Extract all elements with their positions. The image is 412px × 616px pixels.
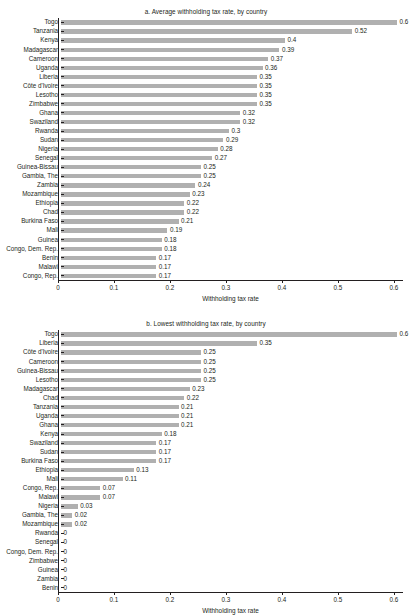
bar-row: Zambia0.24 xyxy=(0,181,412,190)
y-axis-tick xyxy=(61,452,64,453)
y-axis-tick xyxy=(61,203,64,204)
bar xyxy=(61,111,240,115)
bar xyxy=(61,48,279,52)
bar-row: Swaziland0.17 xyxy=(0,439,412,448)
bar xyxy=(61,129,229,133)
bar-row: Sudan0.17 xyxy=(0,448,412,457)
category-label: Rwanda xyxy=(0,530,61,536)
y-axis-tick xyxy=(61,434,64,435)
bar-value-label: 0.18 xyxy=(162,237,177,243)
bar xyxy=(61,192,190,196)
bar-row: Congo, Dem. Rep.0 xyxy=(0,547,412,556)
y-axis-tick xyxy=(61,379,64,380)
bar-row: Côte d'Ivoire0.35 xyxy=(0,81,412,90)
category-label: Zimbabwe xyxy=(0,101,61,107)
bar-zone: 0.25 xyxy=(61,357,412,366)
bar-zone: 0.17 xyxy=(61,262,412,271)
bar-zone: 0.36 xyxy=(61,63,412,72)
bar xyxy=(61,138,223,142)
y-axis-tick xyxy=(61,415,64,416)
x-axis-ticklabel: 0.6 xyxy=(390,595,399,604)
panel-b-plot: Togo0.6Liberia0.35Côte d'Ivoire0.25Camer… xyxy=(0,330,412,616)
bar-zone: 0 xyxy=(61,583,412,592)
bar-value-label: 0.35 xyxy=(257,340,272,346)
bar-zone: 0.22 xyxy=(61,199,412,208)
bar-value-label: 0.17 xyxy=(156,458,171,464)
bar-row: Lesotho0.25 xyxy=(0,375,412,384)
bar-row: Rwanda0 xyxy=(0,529,412,538)
bar-value-label: 0.35 xyxy=(257,92,272,98)
bar xyxy=(61,38,285,42)
category-label: Liberia xyxy=(0,340,61,346)
bar-zone: 0.25 xyxy=(61,375,412,384)
category-label: Benin xyxy=(0,585,61,591)
bar-row: Guinea0.18 xyxy=(0,235,412,244)
category-label: Mali xyxy=(0,476,61,482)
bar-zone: 0.24 xyxy=(61,181,412,190)
category-label: Congo, Rep. xyxy=(0,273,61,279)
bar xyxy=(61,405,179,409)
bar-row: Madagascar0.39 xyxy=(0,45,412,54)
category-label: Kenya xyxy=(0,37,61,43)
bar-value-label: 0.32 xyxy=(240,119,255,125)
y-axis-tick xyxy=(61,58,64,59)
bar-zone: 0.23 xyxy=(61,384,412,393)
bar-row: Chad0.22 xyxy=(0,393,412,402)
category-label: Uganda xyxy=(0,65,61,71)
category-label: Nigeria xyxy=(0,503,61,509)
panel-a-bar-rows: Togo0.6Tanzania0.52Kenya0.4Madagascar0.3… xyxy=(0,18,412,280)
panel-b-x-axis-title: Withholding tax rate xyxy=(0,606,412,616)
y-axis-tick xyxy=(61,587,64,588)
bar-zone: 0.07 xyxy=(61,493,412,502)
y-axis-tick xyxy=(61,479,64,480)
bar xyxy=(61,477,123,481)
y-axis-tick xyxy=(61,578,64,579)
category-label: Gambia, The xyxy=(0,173,61,179)
bar-zone: 0.6 xyxy=(61,330,412,339)
bar-zone: 0.28 xyxy=(61,145,412,154)
bar-row: Mozambique0.23 xyxy=(0,190,412,199)
bar-value-label: 0.22 xyxy=(184,209,199,215)
panel-b-lowest-withholding-tax: b. Lowest withholding tax rate, by count… xyxy=(0,318,412,616)
bar-value-label: 0.11 xyxy=(123,476,137,482)
bar xyxy=(61,274,156,278)
bar xyxy=(61,201,184,205)
bar-value-label: 0.25 xyxy=(201,368,216,374)
bar-value-label: 0.02 xyxy=(72,521,87,527)
bar-value-label: 0.13 xyxy=(134,467,149,473)
bar-value-label: 0.28 xyxy=(218,146,233,152)
category-label: Madagascar xyxy=(0,47,61,53)
bar xyxy=(61,369,201,373)
bar-value-label: 0.03 xyxy=(78,503,93,509)
category-label: Guinea xyxy=(0,237,61,243)
bar xyxy=(61,156,212,160)
y-axis-tick xyxy=(61,488,64,489)
y-axis-tick xyxy=(61,461,64,462)
category-label: Lesotho xyxy=(0,92,61,98)
bar-row: Congo, Rep.0.07 xyxy=(0,484,412,493)
bar-row: Lesotho0.35 xyxy=(0,90,412,99)
y-axis-tick xyxy=(61,370,64,371)
y-axis-tick xyxy=(61,506,64,507)
y-axis-tick xyxy=(61,533,64,534)
bar-value-label: 0.25 xyxy=(201,164,216,170)
bar xyxy=(61,210,184,214)
bar-zone: 0 xyxy=(61,565,412,574)
bar-zone: 0.21 xyxy=(61,217,412,226)
y-axis-tick xyxy=(61,67,64,68)
bar-zone: 0.18 xyxy=(61,430,412,439)
category-label: Liberia xyxy=(0,74,61,80)
bar xyxy=(61,165,201,169)
y-axis-tick xyxy=(61,542,64,543)
category-label: Rwanda xyxy=(0,128,61,134)
category-label: Mali xyxy=(0,227,61,233)
bar-value-label: 0.17 xyxy=(156,255,171,261)
category-label: Gambia, The xyxy=(0,512,61,518)
category-label: Mozambique xyxy=(0,521,61,527)
y-axis-tick xyxy=(61,443,64,444)
bar xyxy=(61,183,195,187)
bar-zone: 0.21 xyxy=(61,411,412,420)
y-axis-tick xyxy=(61,31,64,32)
y-axis-tick xyxy=(61,257,64,258)
